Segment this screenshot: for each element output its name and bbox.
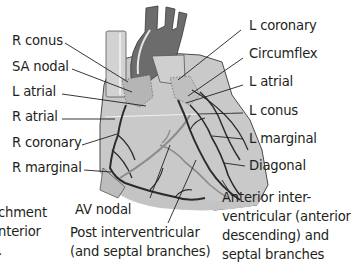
label-sa-nodal: SA nodal — [12, 59, 69, 74]
label-anterior-interventricular: Anterior inter- ventricular (anterior de… — [222, 188, 351, 264]
label-r-coronary: R coronary — [12, 135, 82, 150]
label-diagonal: Diagonal — [249, 158, 306, 173]
label-cropped-left: chment nterior . — [0, 203, 47, 260]
label-post-interventricular: Post interventricular (and septal branch… — [70, 223, 210, 261]
label-l-atrial-right: L atrial — [249, 74, 293, 89]
label-av-nodal: AV nodal — [75, 202, 131, 217]
label-circumflex: Circumflex — [249, 46, 317, 61]
label-r-atrial: R atrial — [12, 109, 58, 124]
label-l-atrial-left: L atrial — [12, 84, 56, 99]
label-l-conus: L conus — [249, 103, 298, 118]
label-l-marginal: L marginal — [249, 131, 317, 146]
label-r-conus: R conus — [12, 33, 63, 48]
label-l-coronary: L coronary — [249, 18, 317, 33]
label-r-marginal: R marginal — [12, 160, 82, 175]
